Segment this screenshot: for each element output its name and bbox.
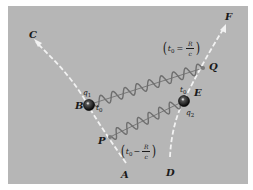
- label-t0-b: t0: [96, 104, 103, 114]
- annotation-retarded-upper: ( t0 = Rc ): [162, 40, 201, 57]
- diagram-canvas: [0, 0, 253, 190]
- label-b: B: [75, 101, 83, 111]
- label-t0-e: t0: [180, 86, 187, 96]
- label-a: A: [121, 170, 129, 180]
- charge-q2: [179, 96, 190, 107]
- label-p: P: [98, 136, 106, 146]
- event-point-p: [108, 135, 112, 139]
- label-f: F: [225, 12, 232, 22]
- label-c: C: [29, 30, 37, 40]
- charge-q1: [84, 100, 95, 111]
- label-d: D: [166, 168, 175, 178]
- event-point-q: [201, 66, 205, 70]
- diagram-stage: C A F D q1 B t0 t0 E q2 P Q ( t0 = Rc ) …: [0, 0, 253, 190]
- label-q: Q: [209, 62, 218, 72]
- label-e: E: [194, 88, 202, 98]
- label-q1: q1: [83, 89, 91, 99]
- annotation-retarded-lower: ( t0 − Rc ): [120, 143, 157, 160]
- label-q2: q2: [186, 109, 194, 119]
